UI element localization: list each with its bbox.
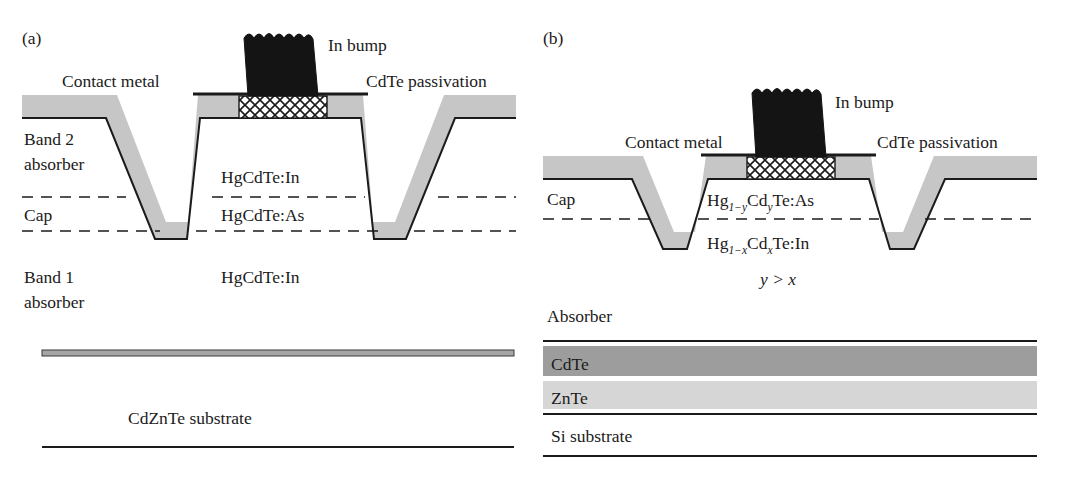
panel-b: (b) bbox=[535, 0, 1070, 477]
label-layer-bottom-a: HgCdTe:In bbox=[221, 267, 300, 287]
label-substrate-b: Si substrate bbox=[551, 426, 632, 446]
label-cdte-passivation-b: CdTe passivation bbox=[877, 132, 998, 152]
label-cap-a: Cap bbox=[24, 205, 52, 225]
panel-b-tag: (b) bbox=[543, 28, 564, 48]
label-condition-b: y > x bbox=[758, 269, 796, 289]
znte-buffer-band-b bbox=[543, 381, 1037, 409]
panel-a: (a) bbox=[0, 0, 535, 477]
in-bump-a bbox=[244, 34, 318, 97]
formula-absorber-layer-b: Hg1−xCdxTe:In bbox=[707, 233, 809, 256]
label-layer-mid-a: HgCdTe:As bbox=[221, 205, 305, 225]
label-layer-top-a: HgCdTe:In bbox=[221, 167, 300, 187]
label-cdte-passivation-a: CdTe passivation bbox=[366, 71, 487, 91]
label-in-bump-a: In bump bbox=[328, 35, 387, 55]
formula-cap-tail: Te:As bbox=[773, 190, 815, 210]
in-bump-b bbox=[752, 89, 826, 158]
cdte-buffer-band-b bbox=[543, 346, 1037, 376]
formula-cap-layer-b: Hg1−yCdyTe:As bbox=[707, 190, 814, 214]
label-band2-line2-a: absorber bbox=[24, 154, 84, 174]
formula-abs-mid: Cd bbox=[747, 233, 768, 253]
formula-cap-lead: Hg bbox=[707, 190, 729, 210]
panel-a-tag: (a) bbox=[22, 28, 42, 48]
contact-window-hatch-a bbox=[239, 96, 327, 118]
label-band2-line1-a: Band 2 bbox=[24, 129, 74, 149]
formula-abs-tail: Te:In bbox=[773, 233, 810, 253]
label-contact-metal-a: Contact metal bbox=[62, 71, 160, 91]
formula-abs-lead: Hg bbox=[707, 233, 729, 253]
formula-abs-sub1: 1−x bbox=[728, 244, 748, 256]
label-znte-buffer-b: ZnTe bbox=[551, 388, 588, 408]
label-substrate-a: CdZnTe substrate bbox=[128, 408, 252, 428]
contact-window-hatch-b bbox=[747, 157, 835, 179]
figure-container: (a) bbox=[0, 0, 1070, 477]
label-band1-line1-a: Band 1 bbox=[24, 267, 74, 287]
label-in-bump-b: In bump bbox=[835, 92, 894, 112]
formula-cap-sub1: 1−y bbox=[728, 201, 748, 214]
label-absorber-b: Absorber bbox=[547, 306, 612, 326]
label-contact-metal-b: Contact metal bbox=[625, 132, 723, 152]
label-band1-line2-a: absorber bbox=[24, 292, 84, 312]
buffer-band-a bbox=[42, 350, 514, 356]
label-cdte-buffer-b: CdTe bbox=[551, 354, 589, 374]
formula-cap-mid: Cd bbox=[747, 190, 768, 210]
label-cap-b: Cap bbox=[547, 189, 575, 209]
